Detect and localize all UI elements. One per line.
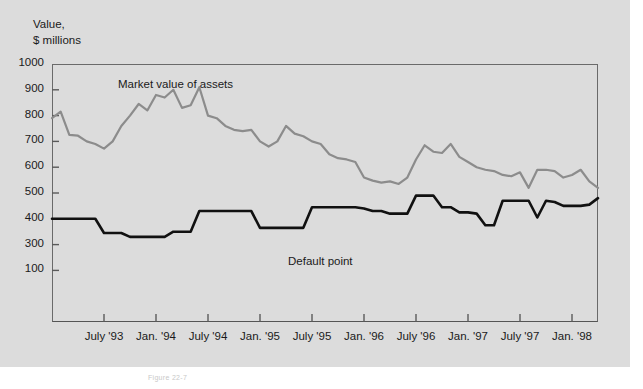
y-tick-label: 300 — [4, 237, 44, 249]
series-label-default-point: Default point — [288, 255, 353, 267]
figure-caption: Figure 22-7 — [148, 374, 187, 381]
y-tick-label: 400 — [4, 211, 44, 223]
y-axis-title: Value, $ millions — [33, 16, 81, 48]
x-tick-label: July '96 — [397, 330, 436, 342]
x-tick-label: Jan. '95 — [240, 330, 280, 342]
series-label-market-value: Market value of assets — [118, 78, 233, 90]
x-tick-label: Jan. '98 — [552, 330, 592, 342]
x-tick-label: July '97 — [501, 330, 540, 342]
y-axis-title-line2: $ millions — [33, 34, 81, 46]
plot-area — [52, 64, 598, 322]
x-tick-label: Jan. '94 — [136, 330, 176, 342]
x-tick-label: July '93 — [85, 330, 124, 342]
y-tick-label: 800 — [4, 108, 44, 120]
x-tick-label: July '94 — [189, 330, 228, 342]
y-tick-label: 100 — [4, 262, 44, 274]
y-axis-title-line1: Value, — [33, 18, 65, 30]
x-tick-label: Jan. '97 — [448, 330, 488, 342]
y-tick-label: 600 — [4, 159, 44, 171]
y-tick-label: 900 — [4, 82, 44, 94]
x-tick-label: July '95 — [293, 330, 332, 342]
figure-container: Value, $ millions 1000900800700600500400… — [0, 0, 643, 389]
y-tick-label: 700 — [4, 133, 44, 145]
y-tick-label: 1000 — [4, 56, 44, 68]
y-tick-label: 500 — [4, 185, 44, 197]
x-tick-label: Jan. '96 — [344, 330, 384, 342]
